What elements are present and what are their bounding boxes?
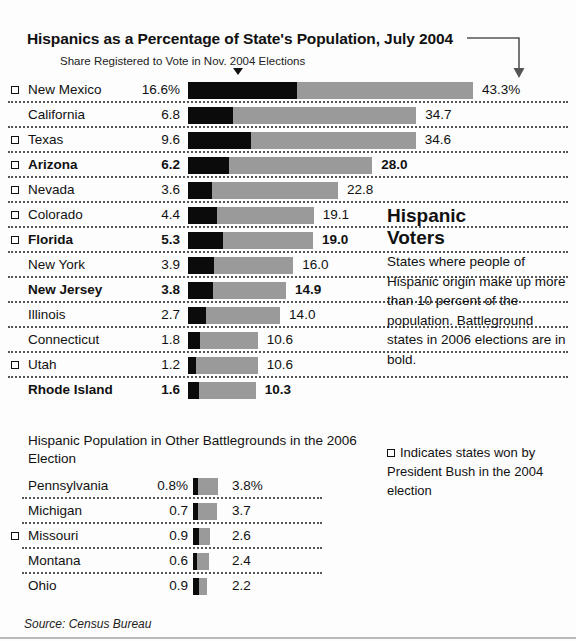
title-callout-arrow-icon [465, 34, 535, 80]
bar-group [188, 132, 416, 149]
sidebar-body-text: States where people of Hispanic origin m… [387, 252, 572, 369]
chart-row: Ohio0.92.2 [0, 574, 400, 599]
bar-group [193, 528, 210, 545]
registered-share-value: 3.8 [92, 282, 180, 297]
chart-row: Missouri0.92.6 [0, 524, 400, 549]
bush-state-square-icon [11, 211, 19, 219]
population-percentage-value: 19.0 [322, 232, 348, 247]
state-name-label: Michigan [28, 503, 82, 518]
registered-share-value: 0.6 [100, 553, 188, 568]
battleground-chart-title: Hispanic Population in Other Battlegroun… [28, 432, 358, 468]
chart-row: California6.834.7 [0, 103, 576, 128]
registered-bar [193, 553, 197, 570]
population-percentage-value: 22.8 [347, 182, 373, 197]
state-name-label: Florida [28, 232, 73, 247]
bush-state-square-icon [11, 361, 19, 369]
registered-share-marker-icon [233, 68, 243, 75]
registered-bar [188, 382, 199, 399]
population-percentage-value: 34.7 [425, 107, 451, 122]
source-credit: Source: Census Bureau [24, 617, 151, 631]
registered-share-value: 2.7 [92, 307, 180, 322]
registered-bar [188, 257, 214, 274]
population-percentage-value: 2.4 [232, 553, 251, 568]
sidebar-heading-line1: Hispanic [387, 205, 572, 227]
registered-bar [188, 307, 206, 324]
population-percentage-value: 2.2 [232, 578, 251, 593]
state-name-label: Illinois [28, 307, 66, 322]
registered-share-value: 0.8% [100, 478, 188, 493]
registered-bar [188, 132, 251, 149]
bush-state-square-icon [11, 86, 19, 94]
population-percentage-value: 14.0 [289, 307, 315, 322]
population-percentage-value: 3.8% [232, 478, 263, 493]
bar-group [188, 82, 473, 99]
state-name-label: Utah [28, 357, 57, 372]
bar-group [188, 282, 286, 299]
state-name-label: Montana [28, 553, 81, 568]
chart-row: Pennsylvania0.8%3.8% [0, 474, 400, 499]
chart-row: Rhode Island1.610.3 [0, 378, 576, 403]
bar-group [193, 578, 207, 595]
state-name-label: Pennsylvania [28, 478, 108, 493]
registered-share-value: 9.6 [92, 132, 180, 147]
registered-share-value: 0.9 [100, 578, 188, 593]
state-name-label: New Mexico [28, 82, 102, 97]
population-bar [188, 357, 258, 374]
registered-share-value: 3.9 [92, 257, 180, 272]
state-name-label: New York [28, 257, 85, 272]
state-name-label: Nevada [28, 182, 75, 197]
registered-bar [188, 207, 217, 224]
sidebar-heading-line2: Voters [387, 227, 572, 249]
registered-share-value: 1.8 [92, 332, 180, 347]
population-percentage-value: 43.3% [482, 82, 520, 97]
registered-bar [188, 82, 297, 99]
chart-row: Montana0.62.4 [0, 549, 400, 574]
bottom-rule [0, 637, 576, 639]
chart-row: Michigan0.73.7 [0, 499, 400, 524]
registered-bar [193, 578, 199, 595]
chart-row: Nevada3.622.8 [0, 178, 576, 203]
registered-bar [193, 478, 198, 495]
bar-group [193, 478, 218, 495]
registered-share-value: 1.2 [92, 357, 180, 372]
population-percentage-value: 28.0 [381, 157, 407, 172]
registered-share-value: 6.8 [92, 107, 180, 122]
bar-group [188, 182, 338, 199]
infographic-sheet: Hispanics as a Percentage of State's Pop… [0, 0, 576, 641]
battleground-bar-chart: Pennsylvania0.8%3.8%Michigan0.73.7Missou… [0, 474, 400, 599]
bush-state-square-icon [11, 161, 19, 169]
population-percentage-value: 10.3 [265, 382, 291, 397]
bush-state-square-icon [387, 449, 395, 457]
registered-bar [188, 357, 196, 374]
chart-row: New Mexico16.6%43.3% [0, 78, 576, 103]
state-name-label: Colorado [28, 207, 83, 222]
bush-state-square-icon [11, 532, 19, 540]
chart-row: Arizona6.228.0 [0, 153, 576, 178]
registered-bar [188, 182, 212, 199]
legend-note-text: Indicates states won by President Bush i… [387, 445, 543, 498]
state-name-label: Arizona [28, 157, 78, 172]
registered-share-value: 3.6 [92, 182, 180, 197]
bar-group [188, 307, 280, 324]
legend-bush-states: Indicates states won by President Bush i… [387, 443, 572, 500]
state-name-label: Ohio [28, 578, 57, 593]
population-percentage-value: 10.6 [267, 357, 293, 372]
registered-bar [193, 503, 198, 520]
population-percentage-value: 14.9 [295, 282, 321, 297]
registered-bar [188, 107, 233, 124]
registered-bar [188, 232, 223, 249]
population-percentage-value: 19.1 [323, 207, 349, 222]
bar-group [188, 107, 416, 124]
registered-share-value: 4.4 [92, 207, 180, 222]
registered-share-value: 5.3 [92, 232, 180, 247]
registered-bar [188, 332, 200, 349]
registered-share-value: 16.6% [92, 82, 180, 97]
registered-share-value: 0.9 [100, 528, 188, 543]
bar-group [188, 357, 258, 374]
bar-group [188, 382, 256, 399]
state-name-label: Missouri [28, 528, 78, 543]
bush-state-square-icon [11, 186, 19, 194]
bar-group [193, 553, 209, 570]
state-name-label: California [28, 107, 85, 122]
bar-group [188, 232, 313, 249]
